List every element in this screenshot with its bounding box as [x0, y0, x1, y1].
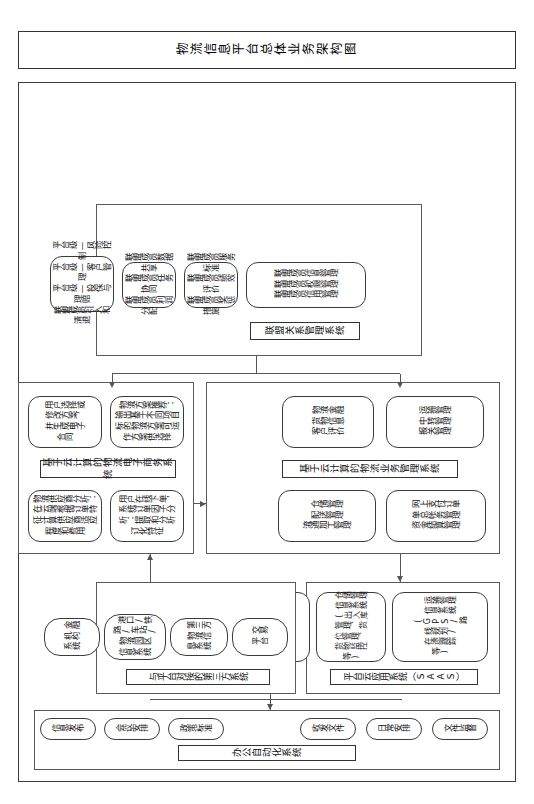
node-alliance-member-mgmt[interactable]: 联盟成员信息管理 联盟成员权限管理 联盟成员信用管理 — [246, 262, 366, 308]
diagram-title: 物流信息平台总体业务架构图 — [18, 31, 516, 69]
diagram-canvas: 物流信息平台总体业务架构图 办公自动化系统 信息发布 会议安排 政策标准 收发文… — [0, 0, 534, 804]
arrow-office-automation-icon — [267, 704, 273, 710]
node-financial-institution[interactable]: 金融 机构 系统 — [44, 618, 100, 656]
saas-title: 平台云应用系统（SAAS） — [330, 669, 478, 685]
node-transport-info-system[interactable]: 运输管理 信息系统 (GPS/路 线规划/ 在途跟踪 等) — [392, 592, 488, 662]
node-solution-recommend[interactable]: 物流方案推荐： 输出基于不同项目 标的物流方案可运 作方案供选择 — [110, 396, 184, 448]
node-alliance-service-standard[interactable]: 联盟成员服务标准 联盟成员绩效评价 联盟成员奖惩措施 — [184, 262, 238, 308]
connector-alliance-to-business — [400, 374, 401, 382]
arrow-ecommerce-down-icon — [200, 502, 206, 508]
node-exchange-platform[interactable]: 交易 平台 — [232, 618, 288, 656]
third-party-title: 与平台对接的第三方系统 — [126, 669, 270, 685]
arrow-to-ecommerce-icon — [109, 382, 115, 388]
node-user-select-contract[interactable]: 用户选择或 修改方案， 并生成电子 合同 — [28, 396, 102, 448]
node-meeting-arrange[interactable]: 会议安排 — [104, 718, 160, 740]
node-doc-supervise[interactable]: 文件监督 — [432, 718, 488, 740]
connector-alliance-to-ecommerce — [112, 374, 113, 382]
node-policy-standard[interactable]: 政策标准 — [168, 718, 224, 740]
node-info-publish[interactable]: 信息发布 — [40, 718, 96, 740]
node-alliance-platform-level[interactable]: 平台级—风险控制 平台级—客户管理 平台级—投保与理赔 联盟成员引入和清退 — [50, 256, 114, 312]
node-alliance-data-share[interactable]: 联盟成员数据共享 联盟成员任务协同 联盟成员利润分配 — [122, 262, 176, 308]
node-warehouse-info-system[interactable]: 仓储管理 信息系统 (出入库 管理、货 位管理、 货物监控 等) — [316, 592, 386, 662]
node-transport-mgmt[interactable]: 运输管理 中转管理 报关管理 — [386, 396, 484, 448]
node-warehouse-mgmt[interactable]: 仓储管理 配送管理 流通加工管理 — [278, 490, 376, 542]
node-online-order-payment[interactable]: 网上支付订单 单总帐务管理 资金结算管理 — [386, 490, 486, 542]
connector-alliance-to-systems — [256, 356, 257, 374]
arrow-to-business-icon — [397, 382, 403, 388]
alliance-system-title: 联盟关系管理系统 — [250, 322, 360, 340]
node-doc-send-receive[interactable]: 收发文件 — [300, 718, 356, 740]
arrow-thirdparty-to-ecommerce-icon — [147, 554, 153, 560]
ecommerce-system-title: 基于云计算的物流电子商务系统 — [40, 460, 176, 478]
business-system-title: 基于云计算的物流业务管理系统 — [282, 460, 458, 478]
node-supplier-analysis[interactable]: 物流供应商分析： 在云端根据订单特 征计算供应商适应 程度和费用 — [28, 490, 102, 542]
node-daily-arrange[interactable]: 日常安排 — [366, 718, 422, 740]
office-automation-group — [34, 710, 500, 770]
connector-left-spine — [150, 699, 402, 700]
connector-alliance-branch-v — [112, 373, 400, 374]
office-automation-title: 办公自动化系统 — [178, 745, 356, 761]
node-order-factor-analysis[interactable]: 用户在线下单， 系统订单因子分 析：提取和分析 订化特征 — [110, 490, 184, 542]
arrow-business-to-saas-icon — [397, 576, 403, 582]
node-port-rail-info[interactable]: 港口/铁 路/车站/ 物流园区 信息系统 — [104, 614, 166, 660]
node-third-party-logistics-info[interactable]: 第三方 物流信 息系统 — [170, 618, 228, 656]
node-logistics-finance[interactable]: 物流金融 货物信息 客户评价 — [282, 396, 374, 448]
